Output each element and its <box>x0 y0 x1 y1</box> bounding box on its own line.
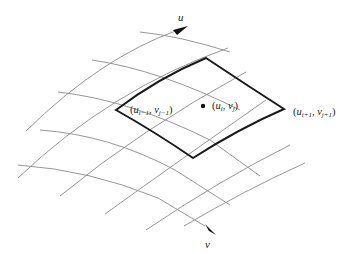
label-next-point: (ui+1, vj+1) <box>293 106 336 119</box>
u-axis-arrow-icon <box>173 26 188 35</box>
v-grid-lines <box>18 32 260 226</box>
highlighted-patch <box>116 58 284 158</box>
center-point <box>201 104 205 108</box>
label-center-point: (ui, vj) <box>212 100 239 113</box>
v-axis-label: v <box>205 238 210 250</box>
u-axis-label: u <box>178 11 184 23</box>
surface-diagram: u v (ui−1, vj−1) (ui, vj) (ui+1, vj+1) <box>0 0 352 254</box>
u-line-5 <box>184 163 305 226</box>
u-line-4 <box>146 145 290 230</box>
v-axis-arrow-icon <box>204 224 216 235</box>
v-line-4 <box>18 165 205 226</box>
v-line-0 <box>140 32 230 52</box>
